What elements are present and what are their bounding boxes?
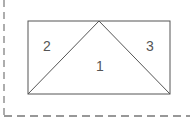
- left-diagonal: [28, 21, 99, 94]
- region-label-1: 1: [96, 58, 104, 74]
- region-label-2: 2: [43, 38, 51, 54]
- region-label-3: 3: [146, 38, 154, 54]
- right-diagonal: [99, 21, 170, 94]
- diagram-canvas: 1 2 3: [0, 0, 190, 119]
